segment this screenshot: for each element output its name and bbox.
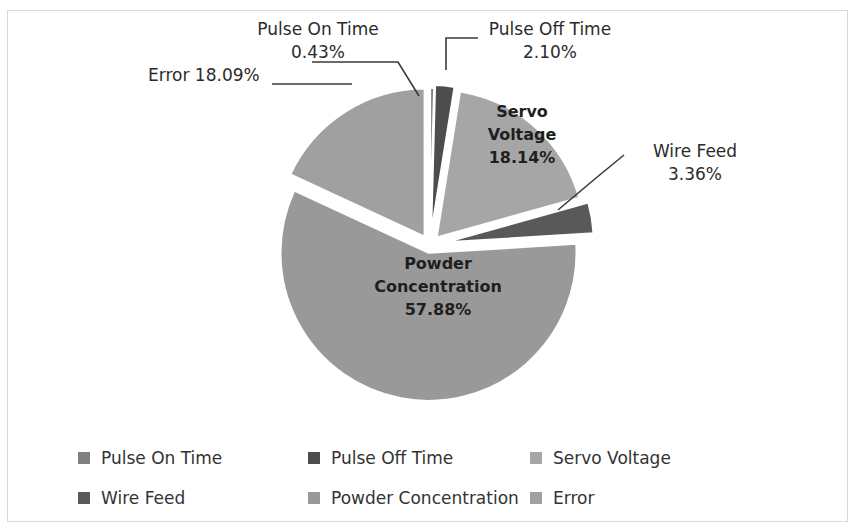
legend-swatch-icon-error bbox=[530, 492, 542, 504]
label-servo-voltage-l1: Servo bbox=[462, 100, 582, 123]
callout-pulse-off-time-value: 2.10% bbox=[470, 41, 630, 64]
legend-item-error[interactable]: Error bbox=[530, 488, 760, 508]
callout-pulse-on-time-name: Pulse On Time bbox=[228, 18, 408, 41]
callout-error: Error 18.09% bbox=[148, 64, 260, 87]
callout-pulse-on-time: Pulse On Time 0.43% bbox=[228, 18, 408, 64]
legend-swatch-icon-servo-voltage bbox=[530, 452, 542, 464]
callout-pulse-off-time: Pulse Off Time 2.10% bbox=[470, 18, 630, 64]
legend-item-pulse-off-time[interactable]: Pulse Off Time bbox=[308, 448, 530, 468]
pie-chart-figure: Pulse On Time 0.43% Pulse Off Time 2.10%… bbox=[0, 0, 858, 528]
label-servo-voltage-l2: Voltage bbox=[462, 123, 582, 146]
callout-wire-feed: Wire Feed 3.36% bbox=[620, 140, 770, 186]
legend-item-wire-feed[interactable]: Wire Feed bbox=[78, 488, 308, 508]
legend-row-2: Wire Feed Powder Concentration Error bbox=[78, 478, 778, 518]
callout-error-label: Error 18.09% bbox=[148, 64, 260, 87]
label-powder-concentration: Powder Concentration 57.88% bbox=[338, 252, 538, 322]
callout-pulse-on-time-value: 0.43% bbox=[228, 41, 408, 64]
legend-swatch-icon-pulse-off-time bbox=[308, 452, 320, 464]
legend-label-pulse-off-time: Pulse Off Time bbox=[331, 448, 453, 468]
callout-wire-feed-name: Wire Feed bbox=[620, 140, 770, 163]
legend-swatch-icon-wire-feed bbox=[78, 492, 90, 504]
label-powder-concentration-l2: Concentration bbox=[338, 275, 538, 298]
label-servo-voltage-value: 18.14% bbox=[462, 146, 582, 169]
legend-swatch-icon-pulse-on-time bbox=[78, 452, 90, 464]
label-servo-voltage: Servo Voltage 18.14% bbox=[462, 100, 582, 170]
chart-legend: Pulse On Time Pulse Off Time Servo Volta… bbox=[78, 438, 778, 518]
label-powder-concentration-value: 57.88% bbox=[338, 298, 538, 321]
legend-label-servo-voltage: Servo Voltage bbox=[553, 448, 671, 468]
legend-item-powder-concentration[interactable]: Powder Concentration bbox=[308, 488, 530, 508]
legend-item-servo-voltage[interactable]: Servo Voltage bbox=[530, 448, 760, 468]
legend-label-wire-feed: Wire Feed bbox=[101, 488, 185, 508]
legend-label-pulse-on-time: Pulse On Time bbox=[101, 448, 222, 468]
label-powder-concentration-l1: Powder bbox=[338, 252, 538, 275]
callout-pulse-off-time-name: Pulse Off Time bbox=[470, 18, 630, 41]
legend-row-1: Pulse On Time Pulse Off Time Servo Volta… bbox=[78, 438, 778, 478]
callout-wire-feed-value: 3.36% bbox=[620, 163, 770, 186]
legend-label-error: Error bbox=[553, 488, 594, 508]
legend-swatch-icon-powder-concentration bbox=[308, 492, 320, 504]
legend-label-powder-concentration: Powder Concentration bbox=[331, 488, 519, 508]
legend-item-pulse-on-time[interactable]: Pulse On Time bbox=[78, 448, 308, 468]
